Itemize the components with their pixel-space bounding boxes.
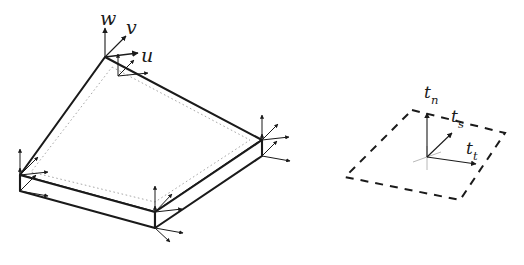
- dof-arrow-u: [262, 137, 289, 140]
- nodal-triad-right-upper: [262, 115, 289, 140]
- left-plate-element: [20, 28, 290, 242]
- label-w: w: [100, 9, 116, 28]
- dof-arrow-u: [105, 53, 138, 57]
- dof-arrow-v: [262, 124, 278, 140]
- dof-arrow-v: [262, 141, 277, 156]
- label-t-n: tn: [424, 84, 438, 105]
- label-t-n-subscript: n: [431, 93, 438, 107]
- right-reference-element: [345, 110, 505, 200]
- label-u: u: [141, 46, 153, 65]
- label-t-s: ts: [451, 108, 464, 129]
- label-t-t-subscript: t: [473, 149, 478, 163]
- figure-container: w v u tn ts tt: [0, 0, 524, 265]
- label-t-t: tt: [466, 140, 477, 161]
- reference-element-outline: [345, 110, 505, 200]
- figure-drawing-canvas: [0, 0, 524, 265]
- label-t-n-base: t: [424, 82, 431, 102]
- label-v: v: [126, 18, 137, 37]
- label-t-t-base: t: [466, 138, 473, 158]
- label-t-s-subscript: s: [458, 117, 464, 131]
- dof-arrow-v: [105, 36, 126, 57]
- label-t-s-base: t: [451, 106, 458, 126]
- dof-arrow-u: [262, 156, 290, 161]
- traction-axis-ts: [427, 133, 452, 157]
